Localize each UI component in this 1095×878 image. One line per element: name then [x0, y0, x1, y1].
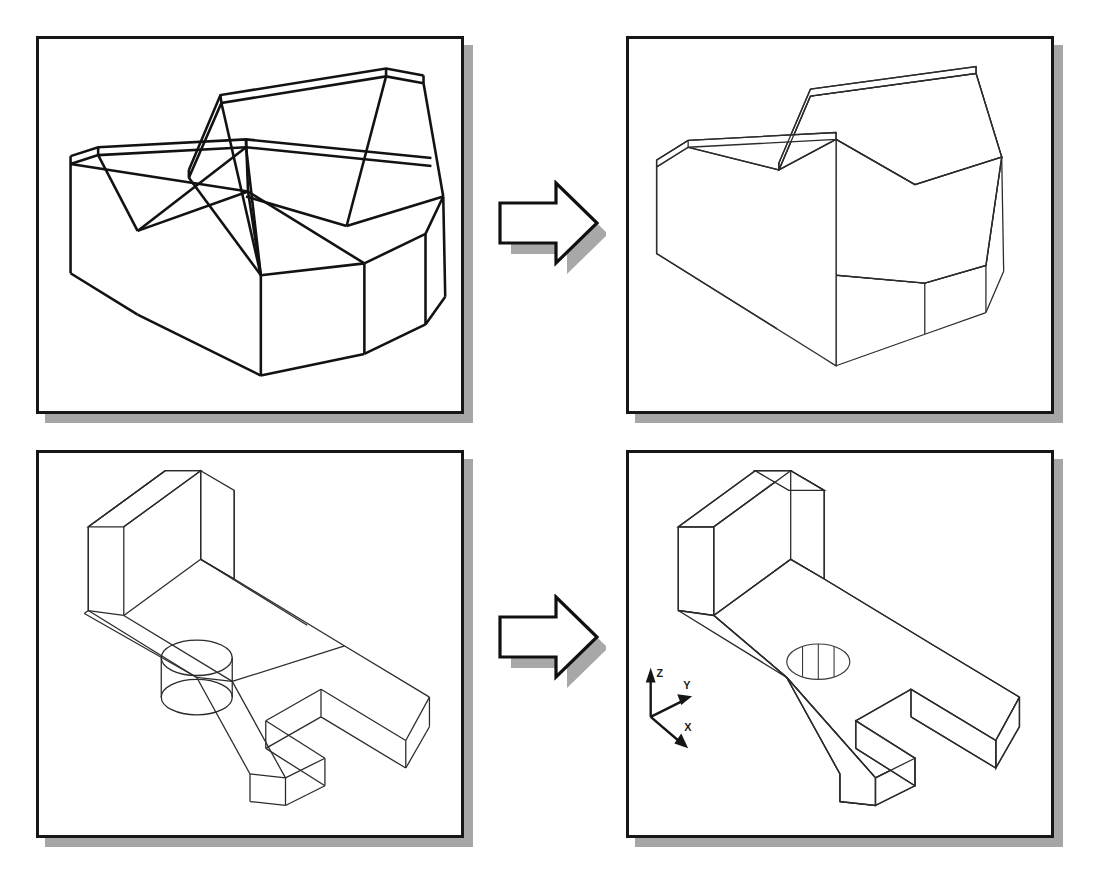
- ucs-label-y: Y: [683, 679, 691, 691]
- transform-arrow-top: [496, 180, 606, 278]
- hidden-bracket-drawing: Z Y X: [629, 453, 1051, 835]
- viewport-panel-hidden-bracket[interactable]: Z Y X: [626, 450, 1054, 838]
- ucs-axis-z-arrowhead: [646, 668, 656, 683]
- wireframe-wedge-drawing: [39, 39, 461, 411]
- hidden-wedge-drawing: [629, 39, 1051, 411]
- through-hole: [787, 644, 850, 679]
- wireframe-bracket-drawing: [39, 453, 461, 835]
- ucs-axis-indicator: Z Y X: [646, 667, 692, 748]
- viewport-panel-wireframe-bracket[interactable]: [36, 450, 464, 838]
- viewport-panel-hidden-wedge[interactable]: [626, 36, 1054, 414]
- figure-root: Z Y X: [0, 0, 1095, 878]
- transform-arrow-bottom: [496, 594, 606, 692]
- ucs-axis-y-line: [651, 701, 683, 717]
- arrow-top-svg: [496, 180, 606, 278]
- ucs-axis-x-line: [651, 717, 679, 741]
- ucs-label-z: Z: [657, 667, 664, 679]
- ucs-axis-x-arrowhead: [674, 734, 688, 749]
- viewport-panel-wireframe-wedge[interactable]: [36, 36, 464, 414]
- ucs-label-x: X: [684, 721, 692, 733]
- arrow-bottom-svg: [496, 594, 606, 692]
